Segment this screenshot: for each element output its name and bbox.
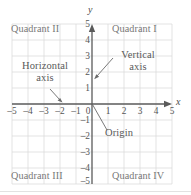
- x-tick-label-3: 3: [133, 106, 147, 116]
- y-tick-label-1: 1: [79, 83, 90, 93]
- y-tick-label-2: 2: [79, 67, 90, 77]
- x-tick-label--2: –2: [53, 106, 67, 116]
- y-tick-label-4: 4: [79, 35, 90, 45]
- x-tick-label-4: 4: [149, 106, 163, 116]
- x-axis-name: x: [176, 96, 180, 107]
- y-tick-label--2: –2: [76, 131, 90, 141]
- quadrant-1-label: Quadrant I: [112, 24, 157, 35]
- x-tick-label-1: 1: [101, 106, 115, 116]
- vertical-axis-leader-line: [94, 58, 113, 79]
- vertical-axis-callout-line2: axis: [114, 61, 162, 72]
- quadrant-2-label: Quadrant II: [11, 24, 59, 35]
- y-tick-label--4: –4: [76, 163, 90, 173]
- y-tick-label-5: 5: [79, 19, 90, 29]
- y-tick-label-3: 3: [79, 51, 90, 61]
- bottom-divider: [0, 191, 191, 192]
- x-tick-label--3: –3: [37, 106, 51, 116]
- x-tick-label-2: 2: [117, 106, 131, 116]
- y-tick-label--5: –5: [76, 176, 90, 186]
- y-axis-name: y: [88, 4, 92, 15]
- vertical-axis-callout-line1: Vertical: [114, 49, 162, 60]
- quadrant-3-label: Quadrant III: [11, 171, 63, 182]
- x-tick-label--5: –5: [5, 106, 19, 116]
- horizontal-axis-callout-line1: Horizontal: [12, 60, 78, 71]
- x-tick-label--4: –4: [21, 106, 35, 116]
- y-tick-label--3: –3: [76, 147, 90, 157]
- x-tick-label-5: 5: [165, 106, 179, 116]
- horizontal-axis-callout-line2: axis: [12, 72, 78, 83]
- quadrant-4-label: Quadrant IV: [112, 171, 164, 182]
- y-tick-label--1: –1: [76, 115, 90, 125]
- origin-callout: Origin: [105, 127, 147, 138]
- coordinate-plane-figure: Quadrant II Quadrant I Quadrant III Quad…: [0, 0, 191, 195]
- horizontal-axis-leader-line: [50, 89, 63, 103]
